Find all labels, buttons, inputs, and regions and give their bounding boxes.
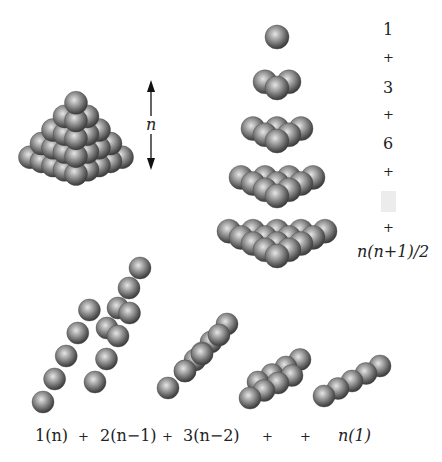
- sphere: [265, 76, 289, 100]
- slice-plus-2: +: [162, 430, 173, 443]
- sphere: [78, 299, 100, 321]
- sphere-pyramid: [19, 91, 134, 185]
- sphere: [44, 368, 66, 390]
- slice-plus-1: +: [78, 430, 89, 443]
- tetrahedral-number-diagram: n 1 + 3 + 6 + + n(n+1)/2 1(n) + 2(n−1) +…: [0, 0, 442, 462]
- sum-plus-3: +: [383, 165, 394, 178]
- sphere: [129, 257, 151, 279]
- sum-term-3: 3: [383, 80, 393, 96]
- sphere: [265, 184, 289, 208]
- sphere: [32, 391, 54, 413]
- pyramid-diagonal-slices: [32, 257, 391, 413]
- sphere: [107, 325, 129, 347]
- sphere: [65, 91, 88, 114]
- slice-plus-4: +: [300, 430, 311, 443]
- slice-plus-3: +: [262, 430, 273, 443]
- sum-plus-1: +: [383, 51, 394, 64]
- sum-term-6: 6: [383, 136, 393, 152]
- sphere: [191, 343, 213, 365]
- slice-term-1: 1(n): [35, 428, 68, 444]
- sum-plus-4: +: [383, 221, 394, 234]
- omitted-term-placeholder: [381, 191, 396, 212]
- height-label: n: [146, 116, 156, 134]
- sphere: [239, 387, 261, 409]
- sphere: [265, 129, 289, 153]
- sphere: [265, 25, 289, 49]
- sphere: [119, 302, 141, 324]
- sphere: [265, 244, 289, 268]
- slice-term-3: 3(n−2): [183, 428, 240, 444]
- sphere: [313, 385, 335, 407]
- sphere: [118, 277, 140, 299]
- sphere: [208, 324, 230, 346]
- sphere: [157, 377, 179, 399]
- sphere: [174, 360, 196, 382]
- sphere: [67, 322, 89, 344]
- slice-term-n: n(1): [338, 428, 371, 444]
- slice-term-2: 2(n−1): [100, 428, 157, 444]
- pyramid-layers: [217, 25, 337, 268]
- sum-term-general: n(n+1)/2: [357, 244, 429, 260]
- sphere-illustrations: [0, 0, 442, 462]
- sum-plus-2: +: [383, 108, 394, 121]
- sphere: [96, 348, 118, 370]
- sphere: [55, 345, 77, 367]
- sum-term-1: 1: [383, 22, 393, 38]
- sphere: [84, 371, 106, 393]
